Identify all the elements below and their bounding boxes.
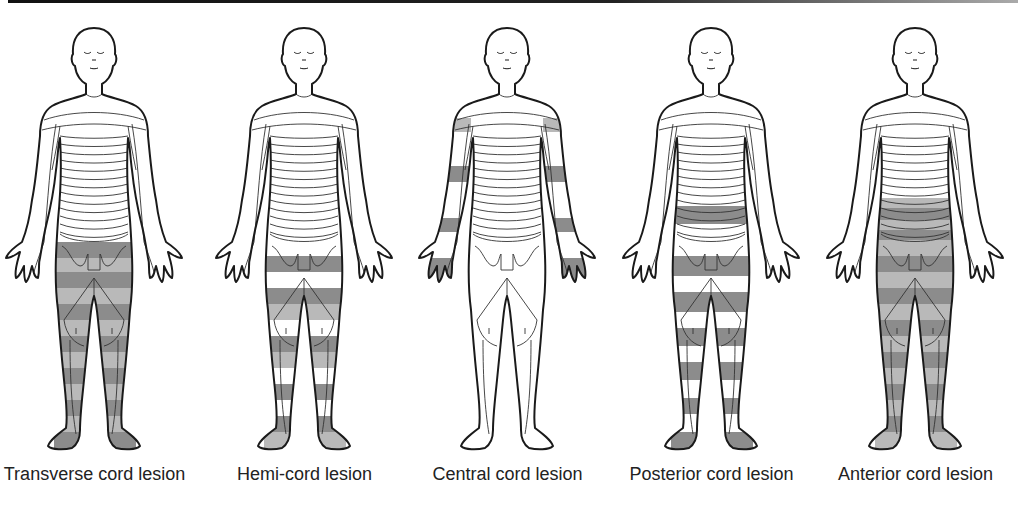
shade-band (264, 352, 346, 368)
body-diagram-svg (813, 20, 1018, 460)
caption-anterior: Anterior cord lesion (813, 464, 1018, 485)
caption-hemi: Hemi-cord lesion (202, 464, 407, 485)
skin-fill (6, 28, 182, 449)
skin-fill (216, 28, 392, 449)
shade-band (671, 328, 753, 346)
body-figure-anterior (813, 20, 1018, 460)
body-diagram-svg (202, 20, 407, 460)
skin-fill (623, 28, 799, 449)
caption-central: Central cord lesion (405, 464, 610, 485)
shade-band (875, 198, 957, 208)
body-figure-transverse (0, 20, 197, 460)
shade-band (264, 304, 346, 320)
shade-band (875, 352, 957, 368)
shade-band (54, 304, 136, 320)
top-rule (8, 0, 1018, 3)
body-figure-central (405, 20, 610, 460)
shade-band (264, 336, 346, 352)
body-figure-hemi (202, 20, 407, 460)
shade-band (54, 336, 136, 352)
shade-band (54, 352, 136, 368)
shade-band (875, 304, 957, 320)
body-diagram-svg (0, 20, 197, 460)
caption-transverse: Transverse cord lesion (0, 464, 197, 485)
body-diagram-svg (405, 20, 610, 460)
shade-band (875, 230, 957, 240)
body-figure-posterior (609, 20, 814, 460)
caption-posterior: Posterior cord lesion (609, 464, 814, 485)
shade-band (875, 220, 957, 230)
body-diagram-svg (609, 20, 814, 460)
skin-fill (419, 28, 595, 449)
shade-band (875, 336, 957, 352)
shade-band (671, 256, 753, 276)
